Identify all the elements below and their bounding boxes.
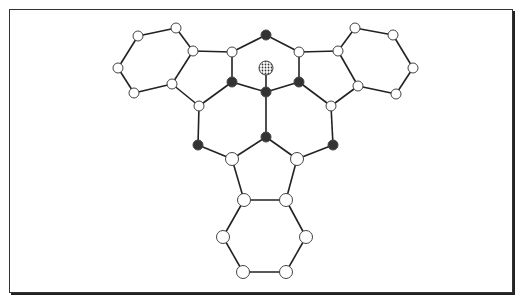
white-atom-M6	[226, 153, 239, 166]
white-atom-L1	[133, 31, 143, 41]
dark-atom-D3	[294, 77, 304, 87]
bond-R5-R6	[338, 51, 358, 86]
white-atom-M7	[291, 153, 304, 166]
bond-R1-R2	[355, 28, 393, 35]
white-atom-L2	[171, 23, 181, 33]
white-atom-L4	[167, 79, 177, 89]
bond-L1-L2	[138, 28, 176, 36]
dark-atom-D1	[227, 77, 237, 87]
white-atom-L6	[113, 63, 123, 73]
molecule-diagram	[0, 0, 527, 302]
dark-atom-M5	[328, 140, 338, 150]
white-atom-B3	[300, 231, 313, 244]
white-atom-R2	[388, 30, 398, 40]
bond-T2-T1	[232, 35, 266, 52]
bond-L3-T2	[193, 51, 232, 52]
white-atom-R1	[350, 23, 360, 33]
dark-atom-M4	[261, 132, 271, 142]
white-atom-R3	[408, 63, 418, 73]
bond-R4-R5	[358, 86, 396, 94]
white-atom-B2	[280, 194, 293, 207]
white-atom-M2	[326, 101, 336, 111]
white-atom-T2	[227, 47, 237, 57]
white-atom-B5	[237, 266, 250, 279]
bond-L6-L1	[118, 36, 138, 68]
white-atom-B4	[280, 266, 293, 279]
white-atom-L3	[188, 46, 198, 56]
bond-R6-T3	[299, 51, 338, 52]
white-atom-B6	[217, 231, 230, 244]
bond-D3-M2	[299, 82, 331, 106]
bond-M1-M3	[198, 106, 199, 145]
dark-atom-T1	[261, 30, 271, 40]
white-atom-R4	[391, 89, 401, 99]
bond-D1-M1	[199, 82, 232, 106]
atoms-layer	[113, 23, 418, 279]
bond-M2-M5	[331, 106, 333, 145]
white-atom-M1	[194, 101, 204, 111]
white-atom-T3	[294, 47, 304, 57]
bond-T1-T3	[266, 35, 299, 52]
bond-L4-L5	[134, 84, 172, 93]
white-atom-R5	[353, 81, 363, 91]
white-atom-L5	[129, 88, 139, 98]
bond-L3-L4	[172, 51, 193, 84]
bond-R2-R3	[393, 35, 413, 68]
dark-atom-D2	[261, 87, 271, 97]
dark-atom-M3	[193, 140, 203, 150]
white-atom-B1	[238, 194, 251, 207]
dotted-atom-Q	[259, 61, 273, 75]
white-atom-R6	[333, 46, 343, 56]
